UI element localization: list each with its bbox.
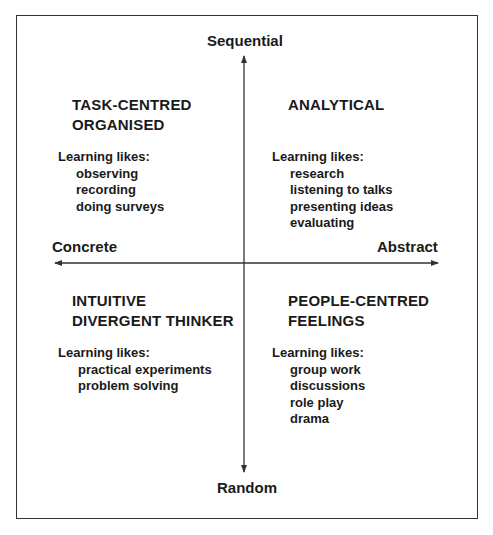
likes-list: group work discussions role play drama [272,362,429,428]
title-line: FEELINGS [288,311,429,331]
list-item: observing [76,166,192,183]
title-line: DIVERGENT THINKER [72,311,234,331]
list-item: listening to talks [290,182,393,199]
title-spacer [288,115,393,135]
axis-label-concrete: Concrete [52,238,117,255]
list-item: doing surveys [76,199,192,216]
learning-likes: Learning likes: observing recording doin… [58,149,192,215]
learning-likes: Learning likes: research listening to ta… [272,149,393,232]
quadrant-title: ANALYTICAL [272,95,393,135]
title-line: ORGANISED [72,115,192,135]
quadrant-title: TASK-CENTRED ORGANISED [58,95,192,135]
title-line: INTUITIVE [72,291,234,311]
list-item: discussions [290,378,429,395]
quadrant-analytical: ANALYTICAL Learning likes: research list… [272,95,393,232]
list-item: evaluating [290,215,393,232]
axes [0,0,493,535]
likes-label: Learning likes: [272,149,393,166]
quadrant-title: PEOPLE-CENTRED FEELINGS [272,291,429,331]
likes-label: Learning likes: [272,345,429,362]
learning-likes: Learning likes: practical experiments pr… [58,345,234,395]
list-item: recording [76,182,192,199]
axis-label-random: Random [217,479,277,496]
axis-label-sequential: Sequential [207,32,283,49]
quadrant-title: INTUITIVE DIVERGENT THINKER [58,291,234,331]
quadrant-task-centred: TASK-CENTRED ORGANISED Learning likes: o… [58,95,192,215]
list-item: presenting ideas [290,199,393,216]
likes-list: observing recording doing surveys [58,166,192,216]
axis-label-abstract: Abstract [377,238,438,255]
quadrant-intuitive: INTUITIVE DIVERGENT THINKER Learning lik… [58,291,234,395]
likes-list: research listening to talks presenting i… [272,166,393,232]
list-item: drama [290,411,429,428]
title-line: PEOPLE-CENTRED [288,291,429,311]
title-line: ANALYTICAL [288,95,393,115]
list-item: research [290,166,393,183]
quadrant-people-centred: PEOPLE-CENTRED FEELINGS Learning likes: … [272,291,429,428]
list-item: problem solving [78,378,234,395]
list-item: role play [290,395,429,412]
list-item: practical experiments [78,362,234,379]
learning-likes: Learning likes: group work discussions r… [272,345,429,428]
likes-label: Learning likes: [58,149,192,166]
likes-label: Learning likes: [58,345,234,362]
likes-list: practical experiments problem solving [58,362,234,395]
title-line: TASK-CENTRED [72,95,192,115]
list-item: group work [290,362,429,379]
